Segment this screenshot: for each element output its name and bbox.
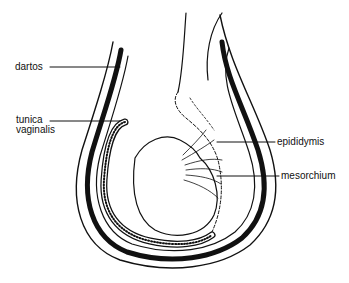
label-dartos: dartos [15,62,43,72]
spermatic-cord-right [207,13,222,80]
epididymis-outline [175,92,221,232]
dartos-layer [87,42,264,259]
testis [134,137,218,235]
label-mesorchium: mesorchium [281,171,335,181]
diagram-canvas: dartos tunica vaginalis epididymis mesor… [0,0,349,283]
label-epididymis: epididymis [277,137,324,147]
spermatic-cord-left [178,13,186,92]
label-vaginalis: vaginalis [16,125,55,135]
